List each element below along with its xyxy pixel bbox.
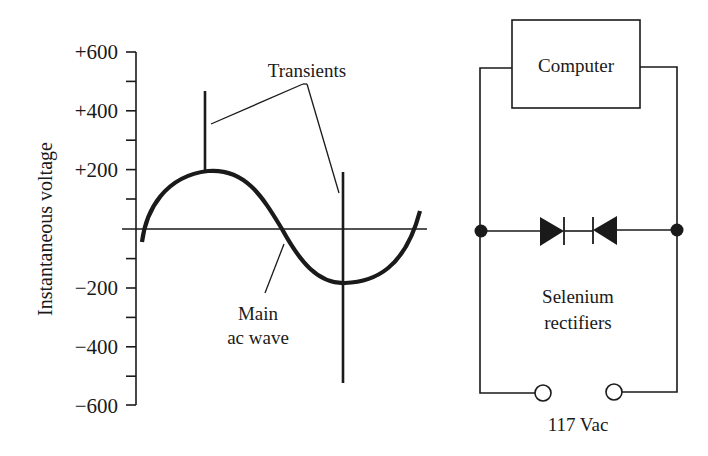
source-terminal-left [535,385,551,401]
rectifier-label-line1: Selenium [542,286,614,307]
tick-label-p200: +200 [75,158,118,182]
tick-label-m400: −400 [75,335,118,359]
main-wave-leader [265,244,284,293]
transients-leaders [211,84,339,193]
y-axis-title: Instantaneous voltage [34,142,57,316]
source-terminal-right [606,384,622,400]
junction-dot-left [475,225,488,238]
rectifier-label-line2: rectifiers [544,312,612,333]
annotation-transients: Transients [268,60,346,81]
annotation-main-line2: ac wave [227,327,289,348]
tick-label-p600: +600 [75,40,118,64]
annotation-main-line1: Main [238,303,279,324]
tick-label-m600: −600 [75,394,118,418]
main-ac-wave [142,171,420,283]
circuit-wires [480,67,677,393]
protection-circuit: Computer Selenium rectifiers [475,20,684,435]
voltage-graph: Instantaneous voltage +600 +400 +200 −20… [34,40,427,418]
figure: Instantaneous voltage +600 +400 +200 −20… [0,0,708,456]
junction-dot-right [671,224,684,237]
computer-label: Computer [538,55,615,76]
tick-label-m200: −200 [75,276,118,300]
tick-label-p400: +400 [75,99,118,123]
selenium-rectifier-diode-left [540,217,564,246]
selenium-rectifier-diode-right [593,216,617,245]
source-label: 117 Vac [548,414,609,435]
